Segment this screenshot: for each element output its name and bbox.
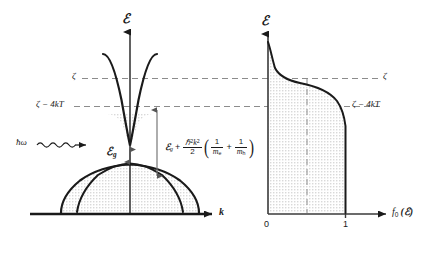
formula-inner-plus: +	[226, 142, 231, 152]
transition-energy-formula: ℰg+ℏ2k22(1me+1mh)	[165, 137, 255, 158]
f0-tick-label-zero: 0	[264, 220, 269, 229]
formula-plus: +	[175, 142, 180, 152]
left-zeta-minus-4kt-label: ζ − 4kT	[36, 100, 64, 109]
f0-axis-label-sub: 0	[395, 211, 399, 218]
band-gap-label: ℰg	[106, 146, 117, 159]
diagram-canvas	[0, 0, 427, 256]
right-zeta-label: ζ	[383, 72, 387, 81]
right-zeta-minus-4kt-label: ζ − 4kT	[352, 100, 380, 109]
formula-kinetic-fraction: ℏ2k22	[183, 139, 201, 157]
right-energy-axis-label: ℰ	[261, 14, 269, 27]
formula-gap-subscript: g	[170, 146, 173, 152]
semiconductor-band-diagram-figure: ℰ ζ ζ − 4kT ħω ℰg ℰg+ℏ2k22(1me+1mh) k ℰ …	[0, 0, 427, 256]
formula-close-paren: )	[249, 137, 254, 158]
f0-tick-label-one: 1	[343, 220, 348, 229]
formula-electron-mass-fraction: 1me	[211, 138, 224, 156]
formula-electron-mass: me	[211, 148, 224, 157]
occupation-fill	[268, 42, 346, 213]
formula-mh-subscript: h	[242, 150, 245, 156]
k-axis-label: k	[219, 207, 224, 217]
formula-open-paren: (	[204, 137, 209, 158]
left-energy-axis-label: ℰ	[122, 12, 130, 25]
formula-k-exponent: 2	[197, 138, 200, 144]
formula-hole-mass-fraction: 1mh	[235, 138, 248, 156]
photon-energy-label: ħω	[16, 138, 27, 147]
band-gap-subscript: g	[113, 151, 117, 159]
formula-hole-mass: mh	[235, 148, 248, 157]
f0-axis-label: f0(ℰ)	[392, 207, 413, 218]
left-zeta-label: ζ	[72, 72, 76, 81]
formula-fraction-denominator: 2	[183, 148, 201, 156]
band-gap-symbol: ℰ	[106, 145, 113, 157]
photon-wavy-arrow	[37, 143, 86, 147]
formula-me-subscript: e	[218, 150, 221, 156]
f0-axis-label-arg: (ℰ)	[400, 206, 413, 217]
